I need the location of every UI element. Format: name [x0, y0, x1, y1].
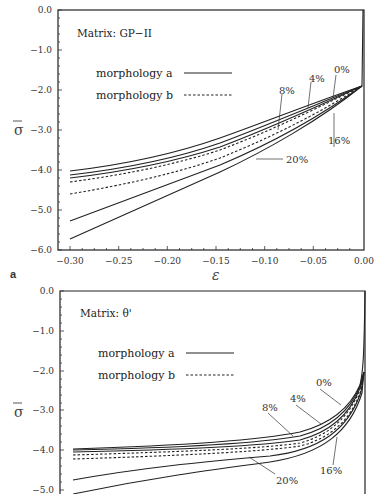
x-tick-labels-a: −0.30 −0.25 −0.20 −0.15 −0.10 −0.05 0.00 — [56, 256, 374, 266]
y-axis-label-a: σ — [13, 121, 24, 138]
y-tick: −3.0 — [32, 405, 54, 415]
curve-16pct-a — [73, 372, 364, 480]
legend-label-morphology-b: morphology b — [98, 369, 175, 382]
annotation-16pct: 16% — [320, 465, 342, 476]
y-tick-labels-b: 0.0 −1.0 −2.0 −3.0 −4.0 −5.0 — [32, 286, 54, 494]
y-tick: −1.0 — [30, 45, 52, 55]
plot-frame-b — [60, 291, 365, 494]
panel-label-a: a — [10, 268, 17, 280]
chart-title-a: Matrix: GP−II — [77, 27, 152, 39]
y-tick: −3.0 — [30, 125, 52, 135]
annotation-20pct: 20% — [276, 475, 298, 486]
chart-title-b: Matrix: θ' — [80, 307, 132, 319]
annotation-4pct: 4% — [309, 73, 325, 84]
x-tick: −0.20 — [154, 256, 182, 266]
x-tick: −0.30 — [56, 256, 84, 266]
annotation-8pct: 8% — [262, 402, 278, 413]
x-tick: 0.00 — [354, 256, 374, 266]
annotation-20pct: 20% — [286, 154, 308, 165]
x-axis-a — [70, 246, 350, 250]
annotation-0pct: 0% — [316, 377, 332, 388]
y-axis-label-b: σ — [13, 403, 24, 420]
x-tick: −0.05 — [300, 256, 328, 266]
annotation-0pct: 0% — [334, 64, 350, 75]
series-lines-b — [73, 291, 365, 494]
y-tick: −4.0 — [30, 165, 52, 175]
x-tick: −0.25 — [105, 256, 133, 266]
y-tick: −6.0 — [30, 245, 52, 255]
figure: 0.0 −1.0 −2.0 −3.0 −4.0 −5.0 −6.0 σ −0.3… — [0, 0, 387, 494]
sigma-bar-symbol: σ — [14, 404, 24, 420]
y-tick: −4.0 — [32, 445, 54, 455]
x-tick: −0.15 — [202, 256, 230, 266]
y-tick: −1.0 — [32, 326, 54, 336]
plot-frame-a — [58, 10, 364, 250]
y-tick: 0.0 — [40, 286, 55, 296]
chart-panel-a: 0.0 −1.0 −2.0 −3.0 −4.0 −5.0 −6.0 σ −0.3… — [10, 5, 374, 283]
legend-label-morphology-b: morphology b — [96, 89, 173, 102]
x-axis-label-epsilon: ε — [212, 267, 220, 283]
legend-label-morphology-a: morphology a — [98, 347, 175, 360]
chart-panel-b: 0.0 −1.0 −2.0 −3.0 −4.0 −5.0 σ Matrix: θ… — [13, 286, 365, 494]
annotations-a — [256, 75, 336, 159]
y-tick: 0.0 — [38, 5, 53, 15]
y-tick-labels-a: 0.0 −1.0 −2.0 −3.0 −4.0 −5.0 −6.0 — [30, 5, 52, 255]
sigma-bar-symbol: σ — [14, 122, 24, 138]
y-tick: −5.0 — [32, 485, 54, 494]
y-tick: −2.0 — [32, 366, 54, 376]
legend-label-morphology-a: morphology a — [96, 67, 173, 80]
annotation-16pct: 16% — [328, 135, 350, 146]
y-tick: −2.0 — [30, 85, 52, 95]
x-tick: −0.10 — [251, 256, 279, 266]
curve-20pct-a — [70, 86, 362, 239]
annotation-8pct: 8% — [279, 85, 295, 96]
y-tick: −5.0 — [30, 205, 52, 215]
series-lines-a — [70, 10, 363, 239]
annotation-4pct: 4% — [290, 393, 306, 404]
